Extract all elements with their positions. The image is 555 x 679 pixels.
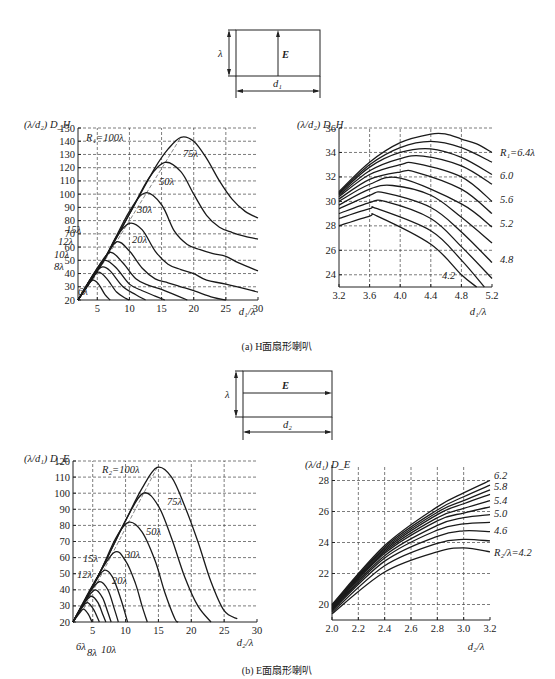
y-tick-label: 30 — [60, 600, 71, 611]
y-tick-label: 28 — [326, 220, 337, 231]
series-curve — [339, 192, 492, 263]
x-tick-label: 10 — [124, 303, 135, 314]
series-label: 4.6 — [494, 525, 508, 536]
series-label: R₁=100λ — [85, 132, 124, 143]
series-label: 30λ — [124, 549, 141, 560]
y-tick-label: 34 — [326, 147, 337, 158]
x-tick-label: 15 — [153, 625, 164, 636]
series-curve — [339, 177, 492, 227]
y-axis-label: (λ/d₂) D_H — [297, 119, 345, 131]
y-tick-label: 24 — [326, 269, 337, 280]
y-tick-label: 26 — [319, 506, 330, 517]
series-label: 20λ — [112, 575, 128, 586]
x-axis-label: d₂/λ — [237, 637, 254, 648]
y-tick-label: 90 — [65, 202, 76, 213]
y-axis-label: (λ/d₂) D_H — [24, 119, 72, 131]
series-label: 15λ — [66, 224, 82, 235]
series-curve — [73, 582, 118, 622]
x-tick-label: 2.8 — [431, 623, 444, 634]
x-tick-label: 3.6 — [363, 290, 376, 301]
series-label: 10λ — [101, 644, 117, 655]
x-tick-label: 4.0 — [394, 290, 407, 301]
series-label: 15λ — [83, 553, 99, 564]
series-label: 50λ — [146, 526, 162, 537]
series-label: R₁=6.4λ — [499, 147, 535, 158]
x-tick-label: 2.0 — [325, 623, 338, 634]
series-label: 75λ — [167, 496, 183, 507]
width-label-a: d₁ — [273, 78, 282, 89]
x-tick-label: 5 — [95, 303, 100, 314]
series-label: 30λ — [136, 204, 153, 215]
series-label: 6.0 — [500, 170, 514, 181]
chart-e-plane-small: 2.02.22.42.62.83.03.22022242628(λ/d₁) D_… — [305, 459, 532, 652]
series-label: 8λ — [87, 647, 97, 658]
chart-h-plane-small: 3.23.64.04.44.85.224262830323436(λ/d₂) D… — [297, 119, 535, 317]
y-tick-label: 30 — [65, 281, 76, 292]
x-axis-label: d₁/λ — [470, 306, 487, 317]
y-tick-label: 28 — [319, 475, 330, 486]
y-tick-label: 110 — [60, 175, 75, 186]
series-curve — [73, 596, 106, 622]
series-label: R₂=100λ — [101, 464, 140, 475]
y-tick-label: 40 — [60, 584, 71, 595]
diagram-h-plane: λ E d₁ — [217, 30, 320, 98]
y-tick-label: 20 — [319, 599, 330, 610]
y-tick-label: 100 — [59, 189, 75, 200]
y-tick-label: 70 — [60, 536, 71, 547]
e-field-label-b: E — [281, 380, 289, 391]
series-label: 6.2 — [494, 470, 508, 481]
series-label: 12λ — [77, 569, 93, 580]
x-tick-label: 4.4 — [424, 290, 438, 301]
y-tick-label: 130 — [59, 149, 75, 160]
figure-canvas: λ E d₁ 510152025302030405060708090100110… — [0, 0, 555, 679]
y-tick-label: 26 — [326, 245, 337, 256]
series-label: 10λ — [54, 249, 70, 260]
x-tick-label: 15 — [156, 303, 167, 314]
series-label: 75λ — [183, 148, 199, 159]
series-label: 20λ — [132, 234, 148, 245]
diagram-e-plane: λ E d₂ — [224, 371, 332, 440]
x-tick-label: 20 — [186, 625, 197, 636]
series-label: 6λ — [76, 641, 86, 652]
x-tick-label: 25 — [219, 625, 230, 636]
series-label: 50λ — [159, 176, 175, 187]
height-label-a: λ — [217, 48, 223, 59]
x-tick-label: 10 — [120, 625, 131, 636]
series-label: 5.4 — [494, 495, 508, 506]
x-tick-label: 2.6 — [404, 623, 417, 634]
x-tick-label: 25 — [221, 303, 232, 314]
width-label-b: d₂ — [283, 419, 292, 430]
y-tick-label: 100 — [54, 488, 70, 499]
x-tick-label: 3.0 — [457, 623, 470, 634]
series-label: 12λ — [58, 236, 74, 247]
chart-h-plane-large: 5101520253020304050607080901001101201301… — [24, 119, 263, 317]
series-label: R₂/λ=4.2 — [493, 547, 532, 558]
y-axis-label: (λ/d₁) D_E — [305, 459, 351, 471]
chart-e-plane-large: 510152025302030405060708090100110120(λ/d… — [24, 453, 262, 658]
y-tick-label: 22 — [319, 568, 330, 579]
series-curve — [78, 223, 258, 300]
x-tick-label: 4.8 — [455, 290, 468, 301]
y-tick-label: 20 — [60, 617, 71, 628]
y-tick-label: 32 — [326, 171, 337, 182]
x-tick-label: 20 — [188, 303, 199, 314]
series-label: 6λ — [78, 286, 88, 297]
caption-a: (a) H面扇形喇叭 — [242, 340, 313, 353]
series-label: 8λ — [54, 261, 64, 272]
x-tick-label: 5 — [90, 625, 95, 636]
x-tick-label: 3.2 — [483, 623, 496, 634]
series-label: 4.8 — [500, 254, 514, 265]
y-tick-label: 30 — [326, 196, 337, 207]
caption-b: (b) E面扇形喇叭 — [242, 664, 312, 677]
series-curve — [73, 467, 237, 622]
y-tick-label: 80 — [60, 520, 71, 531]
series-label: 5.8 — [494, 481, 508, 492]
y-tick-label: 50 — [60, 568, 71, 579]
series-curve — [78, 193, 258, 300]
e-field-label-a: E — [281, 49, 289, 60]
x-tick-label: 2.4 — [378, 623, 392, 634]
series-label: 5.2 — [500, 218, 514, 229]
y-tick-label: 60 — [60, 552, 71, 563]
y-tick-label: 20 — [65, 295, 76, 306]
y-tick-label: 120 — [59, 162, 75, 173]
